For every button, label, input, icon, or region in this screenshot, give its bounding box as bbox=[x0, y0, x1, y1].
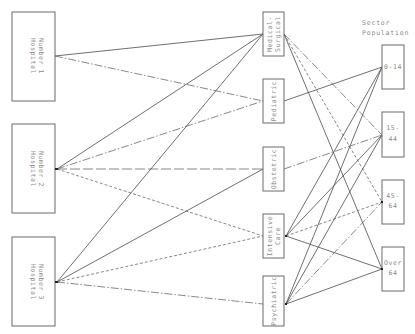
population-15-44-label-line2: 44 bbox=[388, 135, 397, 143]
connector-h1-pediatric bbox=[55, 56, 263, 101]
hospital-3-label-line2: Number 3 bbox=[37, 264, 45, 300]
service-node-medical-surgical: Medical- Surgical bbox=[263, 12, 284, 56]
connector-node-intensive-care bbox=[285, 235, 287, 237]
population-0-14-label: 0-14 bbox=[384, 63, 402, 71]
population-15-44-label-line1: 15- bbox=[386, 124, 400, 132]
hospital-1-label-line2: Number 1 bbox=[37, 38, 45, 74]
connector-node-psychiatric bbox=[285, 303, 287, 305]
hospital-node-1: Hospital Number 1 bbox=[12, 12, 55, 101]
population-45-64-label-line2: 64 bbox=[388, 202, 397, 210]
psychiatric-label: Psychiatric bbox=[270, 276, 278, 326]
population-over-64-label-line1: Over bbox=[384, 259, 402, 267]
hospital-2-label-line2: Number 2 bbox=[37, 151, 45, 187]
connector-node-h3 bbox=[55, 281, 58, 283]
population-node-0-14: 0-14 bbox=[382, 45, 404, 89]
intensive-care-label-line1: Intensive bbox=[266, 216, 274, 257]
connector-h3-intensive-care bbox=[57, 236, 263, 282]
medical-surgical-label-line2: Surgical bbox=[274, 16, 282, 52]
connector-node-h2 bbox=[55, 168, 58, 170]
population-node-over-64: Over 64 bbox=[381, 247, 404, 291]
obstetric-label: Obstetric bbox=[270, 149, 278, 190]
hospital-3-label-line1: Hospital bbox=[29, 264, 37, 300]
hospital-service-connections bbox=[55, 34, 263, 304]
population-node-45-64: 45- 64 bbox=[381, 180, 404, 224]
connector-h1-medical-surgical bbox=[55, 34, 263, 56]
connector-psychiatric-over-64 bbox=[286, 269, 382, 304]
connector-psychiatric-45-64 bbox=[286, 202, 382, 304]
connector-node-over-64 bbox=[381, 268, 383, 270]
connector-intensive-care-0-14 bbox=[286, 67, 382, 236]
population-node-15-44: 15- 44 bbox=[382, 112, 404, 157]
service-node-pediatric: Pediatric bbox=[263, 79, 284, 123]
connector-medical-surgical-45-64 bbox=[284, 34, 382, 202]
connector-medical-surgical-15-44 bbox=[284, 34, 382, 135]
connector-h3-psychiatric bbox=[57, 282, 263, 304]
hospital-sector-flow-diagram: Hospital Number 1 Hospital Number 2 Hosp… bbox=[0, 0, 415, 334]
intensive-care-label-line2: Care bbox=[274, 227, 282, 245]
connector-h3-obstetric bbox=[57, 169, 263, 282]
connector-medical-surgical-over-64 bbox=[284, 34, 382, 269]
service-node-obstetric: Obstetric bbox=[263, 147, 284, 191]
connector-psychiatric-0-14 bbox=[286, 67, 382, 304]
service-node-psychiatric: Psychiatric bbox=[263, 276, 287, 326]
header-line2: Population bbox=[362, 29, 409, 37]
service-population-connections bbox=[284, 34, 382, 304]
connector-h2-pediatric bbox=[57, 101, 263, 169]
connector-h2-medical-surgical bbox=[57, 34, 263, 169]
hospital-2-label-line1: Hospital bbox=[29, 151, 37, 187]
population-45-64-label-line1: 45- bbox=[386, 192, 400, 200]
population-over-64-label-line2: 64 bbox=[388, 269, 397, 277]
pediatric-label: Pediatric bbox=[270, 81, 278, 122]
hospital-1-label-line1: Hospital bbox=[29, 38, 37, 74]
medical-surgical-label-line1: Medical- bbox=[266, 16, 274, 52]
connector-psychiatric-15-44 bbox=[286, 135, 382, 304]
hospital-node-3: Hospital Number 3 bbox=[12, 237, 58, 326]
connector-h3-medical-surgical bbox=[57, 34, 263, 282]
connector-pediatric-0-14 bbox=[284, 67, 382, 101]
connector-obstetric-15-44 bbox=[284, 135, 382, 169]
sector-population-header: Sector Population bbox=[362, 19, 409, 37]
hospital-node-2: Hospital Number 2 bbox=[12, 124, 58, 213]
header-line1: Sector bbox=[362, 19, 390, 27]
service-node-intensive-care: Intensive Care bbox=[263, 214, 287, 258]
connector-node-45-64 bbox=[381, 201, 383, 203]
